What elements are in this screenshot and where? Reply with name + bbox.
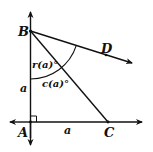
label-side-ac: a bbox=[64, 124, 71, 137]
point-a bbox=[29, 121, 32, 124]
label-angle-c: c(a)° bbox=[42, 78, 69, 89]
label-b: B bbox=[17, 24, 29, 39]
label-angle-r: r(a)° bbox=[32, 59, 58, 70]
label-side-ab: a bbox=[20, 82, 27, 95]
label-d: D bbox=[100, 41, 113, 56]
point-c bbox=[107, 121, 110, 124]
geometry-diagram: B A C D a a r(a)° c(a)° bbox=[0, 0, 153, 152]
label-a: A bbox=[16, 125, 28, 140]
segment-bc bbox=[31, 31, 109, 122]
point-b bbox=[29, 29, 32, 32]
label-c: C bbox=[104, 125, 115, 140]
